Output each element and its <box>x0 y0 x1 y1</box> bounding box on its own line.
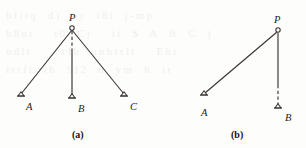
figure-a <box>17 26 128 98</box>
point-marker-circle-P <box>70 26 74 30</box>
figure-page: bfiiq d) by i8i j-mp b8oi i0 Cj ii $ A B… <box>0 0 306 148</box>
segment-P-A <box>205 32 277 93</box>
point-label-a-P: P <box>69 13 75 24</box>
point-marker-triangle-C <box>121 92 127 96</box>
caption-figure-a: (a) <box>72 130 84 140</box>
point-label-a-C: C <box>130 102 137 113</box>
point-label-b-B: B <box>285 113 291 124</box>
point-marker-triangle-B <box>275 104 281 108</box>
figure-b <box>200 28 282 108</box>
point-marker-triangle-A <box>18 92 24 96</box>
caption-figure-b: (b) <box>231 130 243 140</box>
segment-P-C <box>72 30 124 94</box>
point-label-b-A: A <box>201 108 207 119</box>
figures-canvas <box>0 0 306 148</box>
segment-P-A <box>21 30 72 94</box>
point-label-a-A: A <box>26 102 32 113</box>
point-label-a-B: B <box>78 104 84 115</box>
point-marker-circle-P <box>276 28 280 32</box>
point-label-b-P: P <box>274 15 280 26</box>
point-marker-triangle-B <box>69 94 75 98</box>
